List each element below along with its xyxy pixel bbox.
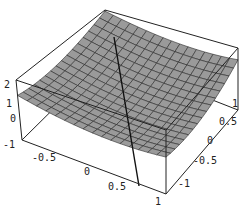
surface-plot: 210-1-0.500.5110.50-0.5-1 — [0, 0, 243, 208]
tick-label-x: 0 — [84, 166, 90, 177]
tick-label-x: 1 — [155, 196, 161, 207]
tick-label-z: -1 — [3, 139, 15, 150]
tick-label-x: -0.5 — [32, 152, 56, 163]
tick-label-y: -1 — [178, 178, 190, 189]
tick-label-z: 2 — [4, 79, 10, 90]
tick-label-y: 1 — [232, 98, 238, 109]
plot-3d: 210-1-0.500.5110.50-0.5-1 — [0, 0, 243, 208]
tick-label-y: 0.5 — [219, 116, 237, 127]
tick-label-x: 0.5 — [108, 181, 126, 192]
tick-label-z: 1 — [6, 98, 12, 109]
tick-label-y: 0 — [207, 135, 213, 146]
tick-label-y: -0.5 — [193, 155, 217, 166]
tick-label-z: 0 — [10, 113, 16, 124]
surface-mesh — [18, 11, 238, 157]
